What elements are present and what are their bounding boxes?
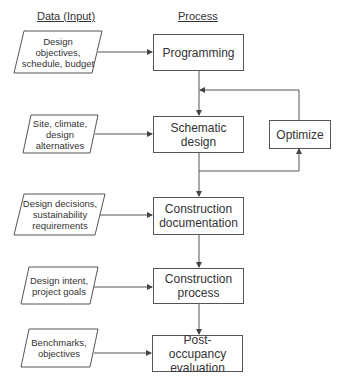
step-label: Programming (162, 46, 234, 60)
input-design-intent: Design intent,project goals (24, 267, 94, 304)
step-label: Construction process (162, 272, 235, 300)
step-programming: Programming (153, 34, 244, 71)
process-column-header: Process (178, 10, 218, 22)
input-column-header: Data (Input) (37, 10, 95, 22)
input-site-climate: Site, climate,designalternatives (26, 115, 94, 153)
step-construction-documentation: Construction documentation (153, 197, 244, 235)
input-design-decisions: Design decisions,sustainabilityrequireme… (18, 194, 102, 235)
step-schematic-design: Schematic design (153, 116, 244, 153)
step-label: Post-occupancy evaluation (159, 333, 236, 375)
step-construction-process: Construction process (153, 268, 244, 304)
step-post-occupancy-evaluation: Post-occupancy evaluation (152, 335, 243, 372)
input-benchmarks: Benchmarks,objectives (24, 329, 94, 367)
optimize-label: Optimize (276, 128, 323, 142)
step-label: Construction documentation (159, 202, 238, 230)
step-label: Schematic design (154, 121, 243, 149)
optimize-box: Optimize (269, 120, 331, 149)
input-design-objectives: Designobjectives,schedule, budget (18, 31, 98, 73)
